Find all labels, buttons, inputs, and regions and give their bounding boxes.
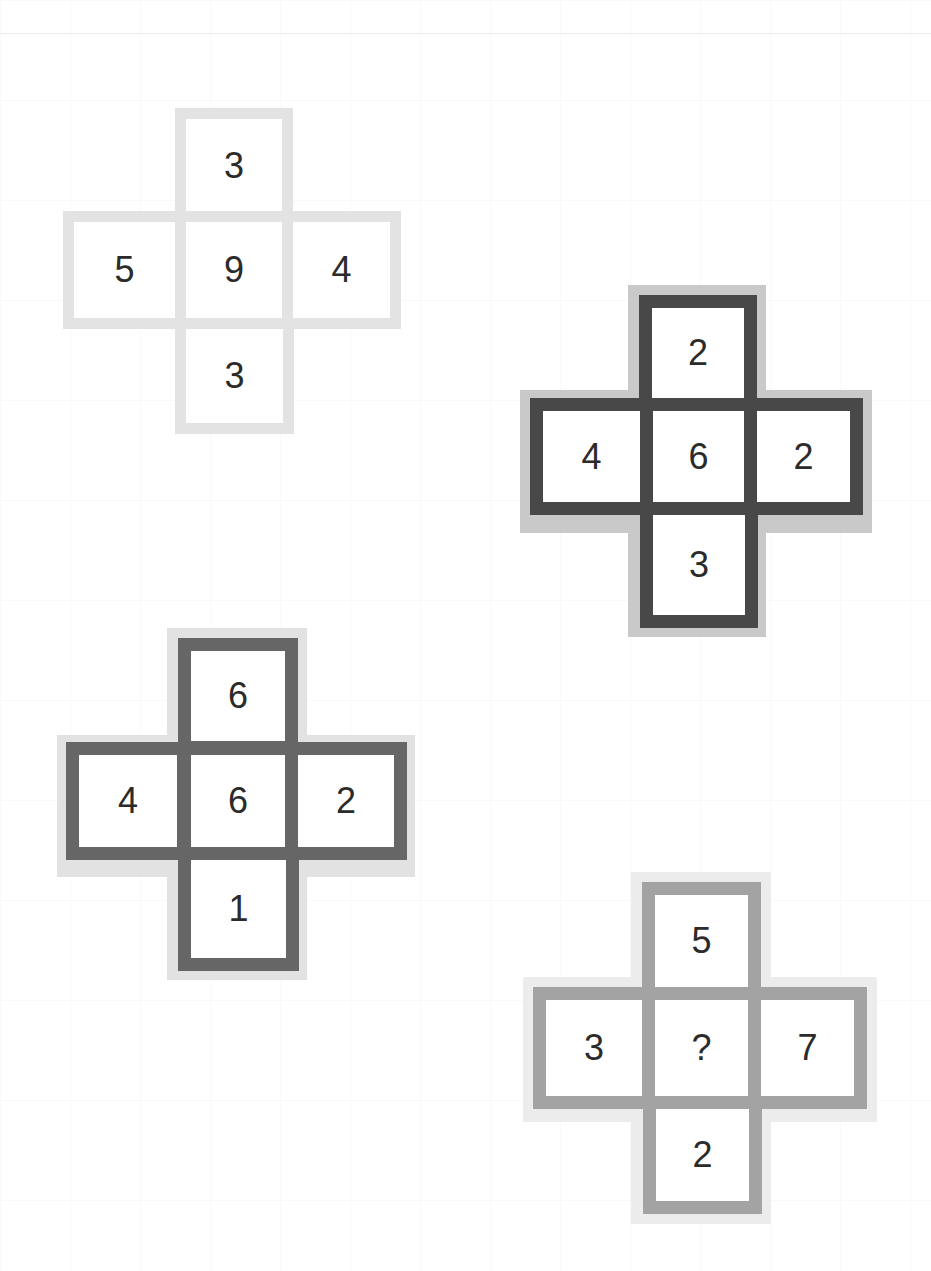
cross-2-top-cell: 2 [639,295,757,411]
cross-3-center-cell: 6 [178,742,298,860]
cross-1-top-cell: 3 [175,108,293,223]
top-rule-line [0,33,931,34]
cross-2-center-cell: 6 [640,398,757,515]
cross-4-bottom-cell: 2 [643,1096,762,1214]
cross-1-right-cell: 4 [282,211,401,329]
cross-2-bottom-cell: 3 [640,502,758,628]
cross-2-left-cell: 4 [530,398,653,515]
cross-4-right-cell: 7 [748,987,867,1109]
cross-4-left-cell: 3 [533,987,655,1109]
cross-1-bottom-cell: 3 [175,318,294,434]
cross-3-bottom-cell: 1 [178,847,299,971]
cross-3-right-cell: 2 [285,742,407,860]
cross-4-center-cell[interactable]: ? [642,987,761,1109]
cross-1-left-cell: 5 [63,211,186,329]
cross-3-top-cell: 6 [178,638,298,754]
cross-4-top-cell: 5 [642,882,761,1000]
cross-2-right-cell: 2 [744,398,863,515]
cross-3-left-cell: 4 [66,742,190,860]
cross-1-center-cell: 9 [175,211,293,329]
